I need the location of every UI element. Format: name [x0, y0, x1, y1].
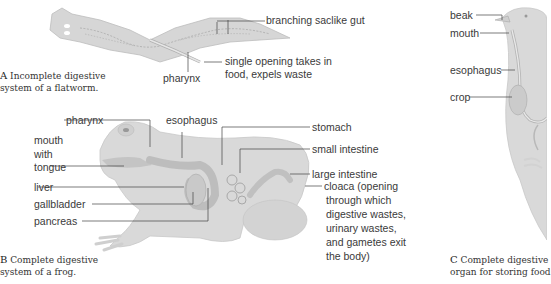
bird-illustration	[469, 8, 547, 240]
caption-c-line1: Complete digestive	[461, 255, 549, 265]
label-cloaca-2: through which	[326, 194, 391, 207]
label-bird-esophagus: esophagus	[450, 64, 501, 77]
label-cloaca-1: cloaca (opening	[324, 180, 398, 193]
caption-a-letter: A	[0, 70, 7, 81]
label-beak: beak	[450, 9, 473, 22]
label-mouth-2: with	[34, 148, 53, 161]
label-frog-esophagus: esophagus	[166, 114, 217, 127]
label-crop: crop	[450, 91, 470, 104]
label-mouth-1: mouth	[34, 134, 63, 147]
label-liver: liver	[34, 181, 53, 194]
label-cloaca-6: the body)	[326, 250, 370, 263]
label-flatworm-pharynx: pharynx	[163, 72, 200, 85]
label-small-intestine: small intestine	[312, 143, 379, 156]
caption-b-line2: system of a frog.	[0, 266, 76, 278]
caption-a-line1: Incomplete digestive	[10, 71, 105, 81]
caption-b-line1: Complete digestive	[10, 255, 98, 265]
label-single-opening-1: single opening takes in	[225, 55, 332, 68]
label-gallbladder: gallbladder	[34, 198, 85, 211]
label-bird-mouth: mouth	[450, 27, 479, 40]
caption-b: B Complete digestive	[0, 254, 98, 266]
label-single-opening-2: food, expels waste	[225, 68, 312, 81]
label-mouth-3: tongue	[34, 161, 66, 174]
label-cloaca-4: urinary wastes,	[326, 222, 397, 235]
label-cloaca-5: and gametes exit	[326, 236, 406, 249]
label-pancreas: pancreas	[34, 215, 77, 228]
caption-c-line2: organ for storing food	[450, 266, 551, 278]
frog-illustration	[38, 120, 322, 250]
label-stomach: stomach	[312, 121, 352, 134]
label-branching-saclike-gut: branching saclike gut	[266, 14, 365, 27]
caption-a-line2: system of a flatworm.	[0, 82, 98, 94]
caption-c-letter: C	[450, 254, 458, 265]
caption-c: C Complete digestive	[450, 254, 548, 266]
caption-a: A Incomplete digestive	[0, 70, 105, 82]
caption-b-letter: B	[0, 254, 7, 265]
label-frog-pharynx: pharynx	[66, 114, 103, 127]
label-cloaca-3: digestive wastes,	[326, 208, 406, 221]
